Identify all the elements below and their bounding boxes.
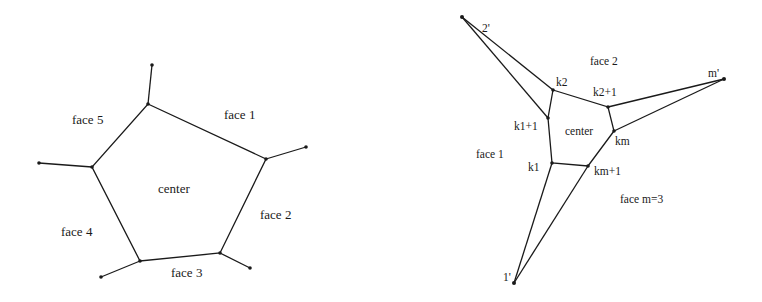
face-2-label: face 2	[260, 207, 291, 222]
vertex-node	[218, 251, 222, 255]
outer-node	[304, 145, 308, 149]
center-label: center	[158, 181, 190, 196]
edge-2prime-k2	[462, 17, 553, 90]
vertex-k1	[550, 161, 554, 165]
outer-node	[37, 161, 41, 165]
face-4-label: face 4	[61, 224, 93, 239]
vertex-km	[612, 129, 616, 133]
face-m3-label: face m=3	[620, 193, 663, 205]
spoke-left	[39, 163, 92, 167]
vertex-k2p1	[606, 105, 610, 109]
label-k1p1: k1+1	[514, 120, 538, 132]
vertex-2prime	[460, 15, 464, 19]
label-1prime: 1'	[503, 271, 511, 283]
edge-mprime-km	[614, 79, 724, 131]
vertex-node	[90, 165, 94, 169]
edge-1prime-k1	[514, 163, 552, 283]
diagram-canvas: center face 1 face 2 face 3 face 4 face …	[0, 0, 762, 302]
face-3-label: face 3	[171, 265, 202, 280]
label-km: km	[615, 135, 630, 147]
label-mprime: m'	[708, 67, 719, 79]
label-k1: k1	[528, 161, 540, 173]
left-pentagon-diagram: center face 1 face 2 face 3 face 4 face …	[37, 63, 308, 280]
face-1-label: face 1	[476, 148, 504, 160]
vertex-k2	[551, 88, 555, 92]
outer-node	[248, 266, 252, 270]
label-2prime: 2'	[482, 22, 490, 34]
vertex-mprime	[722, 77, 726, 81]
face-1-label: face 1	[224, 107, 255, 122]
outer-node	[150, 63, 154, 67]
vertex-node	[264, 157, 268, 161]
vertex-kmp1	[586, 164, 590, 168]
center-label: center	[565, 125, 593, 137]
label-kmp1: km+1	[594, 165, 621, 177]
edge-mprime-k2p1	[608, 79, 724, 107]
spoke-right	[266, 147, 306, 159]
face-5-label: face 5	[72, 112, 103, 127]
vertex-1prime	[512, 281, 516, 285]
spoke-bottom-right	[220, 253, 250, 268]
vertex-k1p1	[546, 116, 550, 120]
edge-1prime-kmp1	[514, 166, 588, 283]
spoke-bottom-left	[101, 261, 140, 277]
edge-2prime-k1p1	[462, 17, 548, 118]
spoke-top	[148, 65, 152, 104]
label-k2p1: k2+1	[593, 86, 617, 98]
label-k2: k2	[556, 76, 568, 88]
face-2-label: face 2	[590, 55, 618, 67]
vertex-node	[138, 259, 142, 263]
vertex-node	[146, 102, 150, 106]
right-star-diagram: center face 1 face 2 face m=3 k2 k2+1 k1…	[460, 15, 726, 285]
outer-node	[99, 275, 103, 279]
